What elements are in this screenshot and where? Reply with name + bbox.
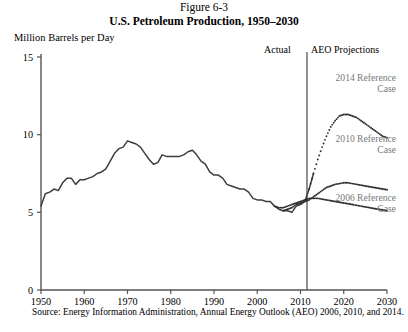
annotation-2014-reference-case: 2014 Reference Case [314, 72, 396, 94]
y-tick-label: 0 [28, 285, 33, 296]
y-tick-label: 5 [28, 207, 33, 218]
series-line-actual [41, 141, 313, 212]
x-tick-label: 2030 [377, 296, 397, 307]
annotation-2010-reference-case: 2010 Reference Case [308, 133, 396, 155]
x-tick-label: 2010 [290, 296, 310, 307]
x-tick-label: 1970 [117, 296, 137, 307]
chart-plot-area: 0510151950196019701980199020002010202020… [0, 0, 408, 332]
figure-container: Figure 6-3 U.S. Petroleum Production, 19… [0, 0, 408, 332]
x-tick-label: 2020 [334, 296, 354, 307]
x-tick-label: 1990 [204, 296, 224, 307]
x-tick-label: 1960 [74, 296, 94, 307]
source-note: Source: Energy Information Administratio… [32, 307, 404, 317]
annotation-2006-reference-case: 2006 Reference Case [310, 192, 396, 214]
y-tick-label: 10 [23, 129, 33, 140]
x-tick-label: 2000 [247, 296, 267, 307]
x-tick-label: 1950 [31, 296, 51, 307]
x-tick-label: 1980 [161, 296, 181, 307]
y-tick-label: 15 [23, 52, 33, 63]
